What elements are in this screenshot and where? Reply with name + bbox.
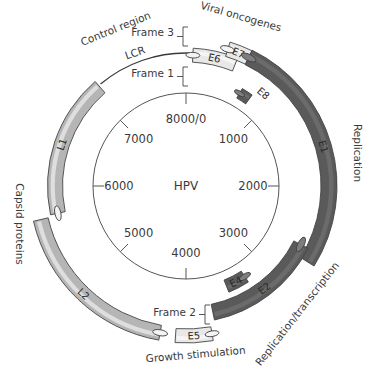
frame-bracket xyxy=(177,67,188,86)
gene-l1: L1 xyxy=(48,81,105,221)
frame-frame-1: Frame 1 xyxy=(131,67,188,86)
gene-e5: E5 xyxy=(175,327,219,343)
ruler-tick xyxy=(120,120,128,128)
gene-e1: E1 xyxy=(240,50,337,266)
ruler-tick xyxy=(120,244,128,252)
ruler-tick-label: 1000 xyxy=(219,132,248,146)
ruler-tick-label: 6000 xyxy=(104,179,133,193)
frame-frame-2: Frame 2 xyxy=(153,305,210,324)
region-label-replication: Replication xyxy=(352,124,364,182)
frame-bracket xyxy=(177,27,188,46)
genome-center-label: HPV xyxy=(174,179,199,193)
gene-end-cap xyxy=(186,52,200,58)
region-label-replication-transcription: Replication/transcription xyxy=(253,259,342,368)
frame-label: Frame 1 xyxy=(131,67,174,79)
region-label-growth-stimulation: Growth stimulation xyxy=(145,344,246,365)
region-label-capsid-proteins: Capsid proteins xyxy=(14,183,26,265)
ruler-tick-label: 8000/0 xyxy=(166,112,206,126)
gene-e4: E4 xyxy=(224,271,252,292)
ruler-tick xyxy=(244,120,252,128)
gene-label: E8 xyxy=(255,85,272,102)
ruler-tick xyxy=(244,244,252,252)
lcr-label: LCR xyxy=(123,43,146,61)
gene-e8: E8 xyxy=(234,85,272,104)
frame-label: Frame 3 xyxy=(131,26,174,38)
ruler-tick-label: 5000 xyxy=(124,226,153,240)
frame-frame-3: Frame 3 xyxy=(131,26,188,46)
gene-label: E5 xyxy=(187,330,200,342)
ruler-tick-label: 2000 xyxy=(238,179,267,193)
frame-label: Frame 2 xyxy=(153,306,196,318)
reading-frame-labels: Frame 3Frame 1Frame 2 xyxy=(131,26,210,324)
ruler-tick-label: 7000 xyxy=(124,132,153,146)
region-label-viral-oncogenes: Viral oncogenes xyxy=(199,0,283,33)
frame-bracket xyxy=(199,305,210,324)
hpv-genome-diagram: 8000/01000200030004000500060007000 LCR E… xyxy=(0,0,368,370)
ruler-tick-label: 3000 xyxy=(219,226,248,240)
ruler-tick-label: 4000 xyxy=(171,246,200,260)
